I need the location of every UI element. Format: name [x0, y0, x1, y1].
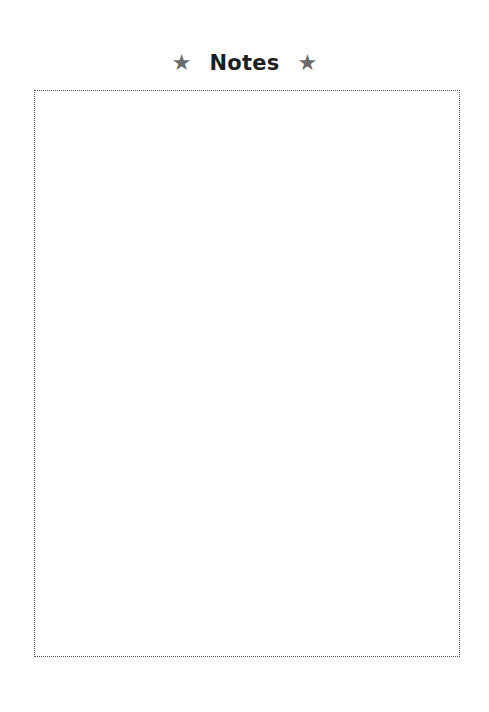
notes-area[interactable]	[34, 90, 460, 657]
page-title: Notes	[210, 51, 280, 75]
page-header: ★ Notes ★	[0, 48, 489, 78]
star-icon: ★	[297, 52, 317, 74]
star-icon: ★	[172, 52, 192, 74]
